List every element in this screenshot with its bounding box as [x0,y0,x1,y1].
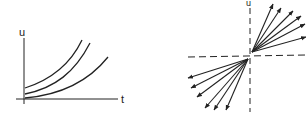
arrow-lower-left [191,59,248,88]
y-axis-label: u [19,26,25,38]
curve-2 [25,43,90,94]
solution-curves [25,40,108,98]
arrow-upper-right [252,24,305,52]
left-diagram: u t [16,26,124,105]
horizontal-dashed-axis [188,55,306,57]
figure: u t u [0,0,306,116]
arrow-lower-left [214,59,248,110]
u-axis-label: u [246,0,251,8]
right-diagram: u [188,0,306,112]
curve-1 [25,40,82,88]
x-axis-label: t [121,93,124,105]
